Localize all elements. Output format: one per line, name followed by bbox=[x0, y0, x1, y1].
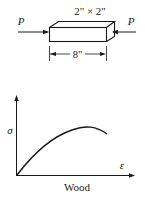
load-right-label: P bbox=[127, 15, 135, 27]
y-axis-label: σ bbox=[7, 124, 13, 136]
cross-section-label: 2" × 2" bbox=[74, 5, 106, 17]
graph-caption: Wood bbox=[64, 181, 91, 193]
wood-compression-diagram: 2" × 2" P P 8" σ ε Wood bbox=[0, 0, 145, 197]
wood-block bbox=[50, 22, 115, 42]
length-label: 8" bbox=[73, 49, 83, 60]
stress-strain-graph: σ ε Wood bbox=[7, 96, 134, 193]
specimen-figure: 2" × 2" P P 8" bbox=[17, 5, 136, 61]
stress-strain-curve bbox=[17, 127, 107, 175]
load-left-label: P bbox=[17, 15, 25, 27]
x-axis-label: ε bbox=[120, 159, 125, 171]
